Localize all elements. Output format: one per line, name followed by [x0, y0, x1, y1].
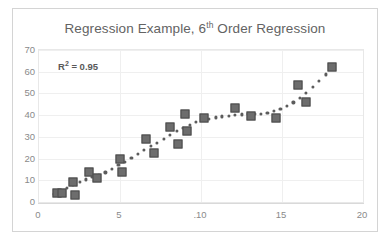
trendline-dot: [78, 180, 81, 183]
trendline-dot: [220, 115, 223, 118]
trendline-dot: [188, 123, 191, 126]
chart-title-suffix: Order Regression: [213, 21, 325, 36]
trendline-dot: [136, 152, 139, 155]
data-point-marker[interactable]: [200, 114, 209, 123]
x-axis-tick-label: 15: [276, 209, 287, 220]
trendline-dot: [104, 171, 107, 174]
trendline-dot: [292, 101, 295, 104]
chart-title-prefix: Regression Example, 6: [65, 21, 207, 36]
data-point-marker[interactable]: [166, 123, 175, 132]
data-point-marker[interactable]: [174, 140, 183, 149]
trendline-dot: [169, 133, 172, 136]
y-axis-tick-label: 20: [13, 152, 35, 163]
trendline-dot: [162, 137, 165, 140]
trendline-dot: [143, 148, 146, 151]
gridline-vertical: [120, 50, 121, 202]
trendline-dot: [266, 111, 269, 114]
gridline-vertical: [201, 50, 202, 202]
x-axis-line: [38, 203, 364, 204]
y-axis-tick-label: 60: [13, 65, 35, 76]
gridline-vertical: [282, 50, 283, 202]
y-axis-tick-label: 30: [13, 130, 35, 141]
data-point-marker[interactable]: [302, 98, 311, 107]
x-axis-tick-label: .10: [193, 209, 206, 220]
data-point-marker[interactable]: [93, 174, 102, 183]
x-axis-tick-label: 5: [116, 209, 121, 220]
y-axis-tick-label: 50: [13, 87, 35, 98]
trendline-dot: [227, 114, 230, 117]
y-axis-tick-labels: 010203040506070: [13, 49, 35, 203]
data-point-marker[interactable]: [247, 112, 256, 121]
trendline-dot: [149, 144, 152, 147]
trendline-dot: [156, 141, 159, 144]
trendline-dot: [318, 79, 321, 82]
chart-card: Regression Example, 6th Order Regression…: [12, 8, 378, 232]
trendline-dot: [110, 167, 113, 170]
data-point-marker[interactable]: [116, 154, 125, 163]
x-axis-tick-label: 0: [35, 209, 40, 220]
trendline-dot: [214, 116, 217, 119]
data-point-marker[interactable]: [117, 168, 126, 177]
x-axis-tick-labels: 05.101520: [38, 209, 364, 223]
y-axis-tick-label: 70: [13, 44, 35, 55]
data-point-marker[interactable]: [180, 110, 189, 119]
data-point-marker[interactable]: [141, 135, 150, 144]
r-squared-prefix: R: [58, 61, 65, 72]
trendline-dot: [272, 109, 275, 112]
trendline-dot: [324, 73, 327, 76]
data-point-marker[interactable]: [183, 127, 192, 136]
data-point-marker[interactable]: [70, 191, 79, 200]
y-axis-tick-label: 10: [13, 174, 35, 185]
chart-title: Regression Example, 6th Order Regression: [13, 21, 377, 36]
trendline-dot: [285, 104, 288, 107]
data-point-marker[interactable]: [231, 103, 240, 112]
trendline-dot: [311, 85, 314, 88]
data-point-marker[interactable]: [271, 114, 280, 123]
plot-area: [38, 49, 364, 203]
r-squared-suffix: = 0.95: [69, 61, 98, 72]
trendline-dot: [175, 130, 178, 133]
data-point-marker[interactable]: [57, 188, 66, 197]
r-squared-annotation: R2 = 0.95: [58, 61, 98, 72]
data-point-marker[interactable]: [150, 149, 159, 158]
data-point-marker[interactable]: [328, 63, 337, 72]
data-point-marker[interactable]: [294, 80, 303, 89]
y-axis-tick-label: 0: [13, 196, 35, 207]
trendline-dot: [195, 120, 198, 123]
data-point-marker[interactable]: [69, 178, 78, 187]
x-axis-tick-label: 20: [357, 209, 368, 220]
y-axis-tick-label: 40: [13, 109, 35, 120]
